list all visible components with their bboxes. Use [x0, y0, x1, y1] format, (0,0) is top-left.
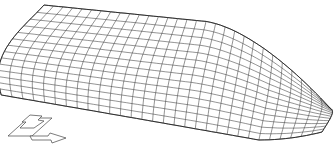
axis-indicator [8, 115, 66, 143]
wireframe-surface [0, 0, 334, 152]
mesh-line [37, 12, 331, 108]
mesh-line [0, 89, 324, 134]
mesh-line [0, 64, 330, 118]
mesh-line [10, 6, 54, 97]
mesh-line [4, 52, 332, 115]
mesh-line [0, 5, 44, 95]
mesh-line [8, 45, 332, 113]
mesh-line [195, 24, 215, 129]
mesh-line [18, 32, 333, 110]
mesh-line [322, 108, 333, 132]
right-arrow-icon [30, 133, 66, 143]
figure [0, 0, 334, 152]
mesh-line [1, 95, 322, 140]
